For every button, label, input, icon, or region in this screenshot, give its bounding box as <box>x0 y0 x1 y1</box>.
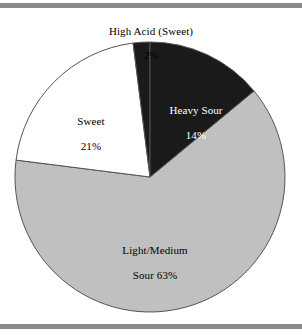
pie-label-sweet-percent: 21% <box>49 140 133 152</box>
pie-label-heavy-sour-percent: 14% <box>148 129 244 141</box>
pie-label-high-acid-sweet-percent: 2% <box>66 50 236 62</box>
pie-label-light-medium-sour-name: Light/Medium <box>95 244 215 256</box>
pie-label-sweet: Sweet 21% <box>49 103 133 165</box>
top-divider-rule <box>0 3 302 8</box>
pie-label-high-acid-sweet-name: High Acid (Sweet) <box>66 25 236 37</box>
pie-label-heavy-sour-name: Heavy Sour <box>148 104 244 116</box>
pie-label-high-acid-sweet: High Acid (Sweet) 2% <box>66 13 236 74</box>
pie-label-sweet-name: Sweet <box>49 115 133 127</box>
figure-panel: High Acid (Sweet) 2% Heavy Sour 14% Swee… <box>0 0 302 335</box>
pie-label-heavy-sour: Heavy Sour 14% <box>148 92 244 154</box>
pie-chart: High Acid (Sweet) 2% Heavy Sour 14% Swee… <box>0 10 302 322</box>
pie-label-light-medium-sour: Light/Medium Sour 63% <box>95 232 215 294</box>
bottom-divider-rule <box>0 324 302 329</box>
pie-label-light-medium-sour-percent: Sour 63% <box>95 269 215 281</box>
